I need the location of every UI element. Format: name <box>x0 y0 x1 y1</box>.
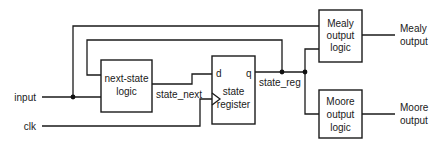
moore-label-1: Moore <box>326 96 355 107</box>
moore-output-label-2: output <box>400 115 428 126</box>
input-junction <box>71 95 76 100</box>
state-feedback-junction <box>280 70 285 75</box>
state-to-moore-wire <box>305 72 319 114</box>
mealy-output-label-1: Mealy <box>400 23 427 34</box>
q-port-label: q <box>246 68 252 79</box>
d-port-label: d <box>216 68 222 79</box>
state-register-label-2: register <box>217 99 251 110</box>
state-next-wire <box>152 74 212 84</box>
input-label: input <box>14 92 36 103</box>
mealy-output-label-2: output <box>400 36 428 47</box>
next-state-label-1: next-state <box>105 73 149 84</box>
moore-label-2: output <box>327 109 355 120</box>
mealy-label-3: logic <box>330 42 351 53</box>
state-to-mealy-wire <box>305 49 319 72</box>
moore-label-3: logic <box>330 122 351 133</box>
state-next-label: state_next <box>156 89 202 100</box>
mealy-label-2: output <box>327 30 355 41</box>
moore-output-label-1: Moore <box>400 102 429 113</box>
state-reg-label: state_reg <box>259 77 301 88</box>
state-register-label-1: state <box>223 86 245 97</box>
clk-label: clk <box>24 121 37 132</box>
mealy-label-1: Mealy <box>327 18 354 29</box>
next-state-label-2: logic <box>116 86 137 97</box>
output-logic-junction <box>303 70 308 75</box>
fsm-block-diagram: next-state logic d q state register Meal… <box>0 0 446 146</box>
